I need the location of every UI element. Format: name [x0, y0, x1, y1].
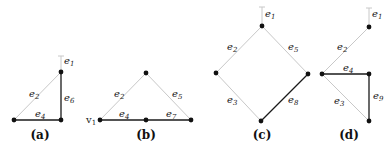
- edge-label-e3: e3: [227, 94, 238, 107]
- edge-label-e2: e2: [227, 41, 238, 54]
- caption-a: (a): [30, 128, 49, 142]
- node: [214, 71, 219, 76]
- caption-c: (c): [253, 128, 272, 142]
- edge-label-e5: e5: [172, 88, 183, 101]
- edge-e8: [261, 74, 308, 121]
- edge-label-e4: e4: [35, 108, 45, 121]
- panel-c: e1 e2 e5 e3 e8 (c): [214, 7, 311, 142]
- panel-d: e1 e2 e4 e3 e9 (d): [320, 8, 384, 142]
- node: [189, 118, 194, 123]
- edge-label-e5: e5: [288, 41, 299, 54]
- edge-label-e7: e7: [166, 108, 177, 121]
- edge-label-e2: e2: [29, 88, 40, 101]
- vertex-label-v1: v1: [85, 114, 96, 127]
- edge-label-e2: e2: [114, 88, 125, 101]
- edge-label-e9: e9: [373, 90, 384, 103]
- node: [260, 24, 265, 29]
- node: [144, 71, 149, 76]
- edge-e5: [262, 26, 308, 74]
- node: [367, 25, 372, 30]
- edge-label-e4: e4: [119, 108, 129, 121]
- node-v1: [98, 118, 103, 123]
- edge-label-e6: e6: [64, 92, 75, 105]
- node: [144, 118, 149, 123]
- node: [367, 119, 372, 124]
- edge-e3: [322, 74, 369, 121]
- node: [306, 72, 311, 77]
- graph-figure: e1 e2 e4 e6 (a) v1 e2 e5 e4 e7 (b) e1 e2: [0, 0, 392, 154]
- node: [59, 70, 64, 75]
- edge-label-e2: e2: [337, 41, 348, 54]
- caption-d: (d): [339, 128, 359, 142]
- edge-label-e3: e3: [334, 95, 345, 108]
- edge-label-e1: e1: [372, 8, 382, 21]
- edge-e2: [216, 26, 262, 73]
- edge-label-e1: e1: [64, 55, 74, 68]
- node: [320, 72, 325, 77]
- edge-label-e4: e4: [343, 62, 353, 75]
- node: [367, 72, 372, 77]
- node: [12, 118, 17, 123]
- panel-b: v1 e2 e5 e4 e7 (b): [85, 71, 193, 142]
- node: [59, 118, 64, 123]
- node: [259, 119, 264, 124]
- edge-e3: [216, 73, 261, 121]
- edge-label-e1: e1: [265, 8, 275, 21]
- edge-label-e8: e8: [288, 94, 299, 107]
- panel-a: e1 e2 e4 e6 (a): [12, 55, 75, 142]
- caption-b: (b): [136, 128, 156, 142]
